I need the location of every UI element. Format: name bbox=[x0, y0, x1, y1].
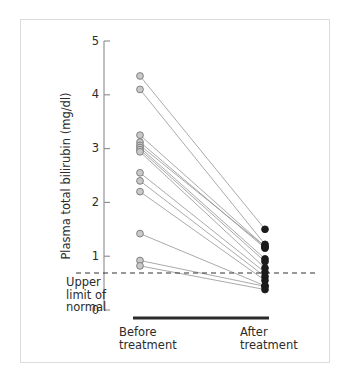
data-point-after bbox=[262, 243, 269, 250]
x-axis-category-labels: BeforetreatmentAftertreatment bbox=[119, 325, 298, 352]
connector-line bbox=[140, 192, 265, 281]
data-point-before bbox=[137, 262, 144, 269]
upper-limit-of-normal-label: Upperlimit ofnormal bbox=[66, 275, 107, 314]
data-point-after bbox=[262, 226, 269, 233]
y-axis-title: Plasma total bilirubin (mg/dl) bbox=[59, 92, 73, 259]
connector-line bbox=[140, 135, 265, 246]
category-label-line: treatment bbox=[119, 338, 177, 352]
connector-line bbox=[140, 148, 265, 259]
y-tick-label: 3 bbox=[92, 141, 99, 155]
before-treatment-points bbox=[137, 73, 144, 270]
paired-dot-plot: 012345 Plasma total bilirubin (mg/dl) Up… bbox=[0, 0, 350, 382]
data-point-before bbox=[137, 148, 144, 155]
data-point-after bbox=[262, 286, 269, 293]
data-point-before bbox=[137, 177, 144, 184]
data-point-before bbox=[137, 86, 144, 93]
y-tick-label: 1 bbox=[92, 249, 99, 263]
data-point-before bbox=[137, 73, 144, 80]
connector-line bbox=[140, 173, 265, 273]
category-label-line: Before bbox=[119, 325, 157, 339]
connector-line bbox=[140, 76, 265, 229]
connector-lines bbox=[140, 76, 265, 290]
connector-line bbox=[140, 152, 265, 268]
y-tick-label: 2 bbox=[92, 195, 99, 209]
after-treatment-points bbox=[262, 226, 269, 293]
data-point-before bbox=[137, 188, 144, 195]
annotation-line: normal bbox=[66, 300, 106, 314]
data-point-before bbox=[137, 132, 144, 139]
category-label-line: treatment bbox=[240, 338, 298, 352]
connector-line bbox=[140, 145, 265, 246]
y-tick-label: 5 bbox=[92, 34, 99, 48]
data-point-before bbox=[137, 169, 144, 176]
y-tick-label: 4 bbox=[92, 87, 99, 101]
data-point-after bbox=[262, 258, 269, 265]
data-point-before bbox=[137, 230, 144, 237]
category-label-line: After bbox=[240, 325, 268, 339]
